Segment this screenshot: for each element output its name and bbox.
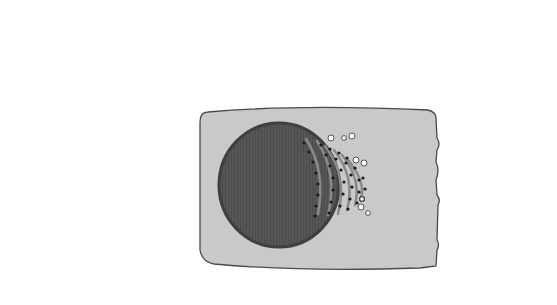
cell-diagram <box>0 0 557 305</box>
